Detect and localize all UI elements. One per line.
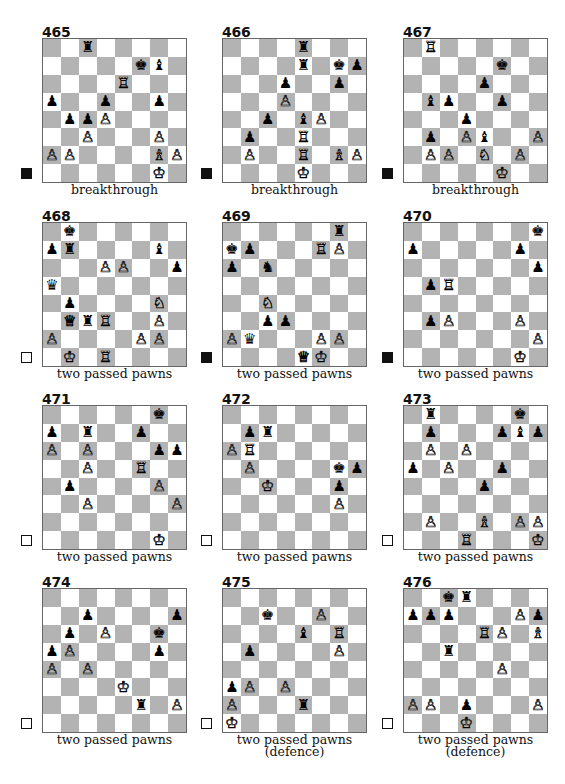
square-c3 <box>79 678 97 696</box>
square-f5 <box>132 93 150 111</box>
black-rook-icon: ♜ <box>332 224 345 239</box>
square-g5 <box>511 643 529 661</box>
black-pawn-icon: ♟ <box>424 130 437 145</box>
square-a4: ♙ <box>43 661 61 679</box>
black-pawn-icon: ♟ <box>531 608 544 623</box>
square-d1 <box>277 164 295 182</box>
square-g7: ♝ <box>150 57 168 75</box>
diagram-caption: two passed pawns <box>42 551 187 563</box>
square-a3 <box>43 312 61 330</box>
square-e8: ♜ <box>295 39 313 57</box>
black-pawn-icon: ♟ <box>243 425 256 440</box>
square-e4: ♝ <box>295 111 313 129</box>
square-g5 <box>330 277 348 295</box>
square-c8 <box>79 223 97 241</box>
square-d6 <box>458 75 476 93</box>
square-e3 <box>115 495 133 513</box>
square-a3 <box>404 495 422 513</box>
black-rook-icon: ♜ <box>297 40 310 55</box>
black-bishop-icon: ♝ <box>297 626 310 641</box>
white-rook-icon: ♖ <box>297 130 310 145</box>
square-d7 <box>97 607 115 625</box>
black-pawn-icon: ♟ <box>406 242 419 257</box>
square-d8 <box>97 223 115 241</box>
square-c4 <box>79 295 97 313</box>
square-a8 <box>43 406 61 424</box>
square-a4 <box>404 111 422 129</box>
square-f5: ♖ <box>132 460 150 478</box>
white-pawn-icon: ♙ <box>99 112 112 127</box>
square-g7 <box>330 607 348 625</box>
black-pawn-icon: ♟ <box>63 626 76 641</box>
square-a1 <box>43 714 61 732</box>
black-pawn-icon: ♟ <box>261 112 274 127</box>
square-b8 <box>241 39 259 57</box>
square-d7 <box>277 241 295 259</box>
square-c7: ♟ <box>79 607 97 625</box>
square-d8 <box>277 406 295 424</box>
square-h8: ♚ <box>529 223 547 241</box>
square-a6 <box>404 75 422 93</box>
square-d2 <box>458 146 476 164</box>
square-a1 <box>404 714 422 732</box>
square-d6 <box>277 442 295 460</box>
square-f8 <box>493 223 511 241</box>
square-d4 <box>97 295 115 313</box>
black-king-icon: ♚ <box>332 461 345 476</box>
square-h8 <box>348 39 366 57</box>
black-king-icon: ♚ <box>513 407 526 422</box>
square-b2 <box>61 330 79 348</box>
square-g8: ♚ <box>511 406 529 424</box>
square-f2 <box>312 696 330 714</box>
square-g1 <box>511 714 529 732</box>
square-h5 <box>348 643 366 661</box>
square-d6 <box>277 259 295 277</box>
square-a4 <box>223 111 241 129</box>
square-c1 <box>79 164 97 182</box>
white-king-icon: ♔ <box>460 716 473 731</box>
square-d7 <box>458 241 476 259</box>
square-e4 <box>476 111 494 129</box>
chess-board: ♚♟♟♟♟♖♟♙♙♙♔ <box>403 222 548 367</box>
square-h8 <box>529 589 547 607</box>
white-pawn-icon: ♙ <box>315 112 328 127</box>
square-e2 <box>476 696 494 714</box>
square-b1 <box>241 531 259 549</box>
square-a5 <box>223 460 241 478</box>
white-pawn-icon: ♙ <box>424 443 437 458</box>
square-d4 <box>277 478 295 496</box>
square-f6 <box>312 259 330 277</box>
square-a5 <box>223 277 241 295</box>
square-g5 <box>511 277 529 295</box>
square-e3 <box>115 128 133 146</box>
square-f2: ♜ <box>132 696 150 714</box>
square-c1 <box>259 531 277 549</box>
square-e4 <box>115 661 133 679</box>
black-rook-icon: ♜ <box>297 58 310 73</box>
black-pawn-icon: ♟ <box>63 112 76 127</box>
square-a8 <box>404 406 422 424</box>
square-g1 <box>150 348 168 366</box>
square-h1 <box>529 714 547 732</box>
square-e6 <box>295 442 313 460</box>
white-pawn-icon: ♙ <box>45 148 58 163</box>
square-d1 <box>277 714 295 732</box>
square-b2: ♙ <box>422 146 440 164</box>
square-h3 <box>348 312 366 330</box>
diagram-caption: breakthrough <box>42 184 187 196</box>
square-b4 <box>241 295 259 313</box>
square-b8: ♚ <box>61 223 79 241</box>
square-h3 <box>168 312 186 330</box>
square-a1 <box>223 348 241 366</box>
square-g6 <box>511 625 529 643</box>
square-c8 <box>440 406 458 424</box>
square-b7: ♟ <box>422 607 440 625</box>
square-b4 <box>61 661 79 679</box>
square-e1 <box>476 714 494 732</box>
white-bishop-icon: ♗ <box>478 515 491 530</box>
square-f3 <box>132 495 150 513</box>
square-d6 <box>97 75 115 93</box>
square-a5 <box>404 277 422 295</box>
square-f7: ♟ <box>493 424 511 442</box>
square-h5 <box>529 643 547 661</box>
